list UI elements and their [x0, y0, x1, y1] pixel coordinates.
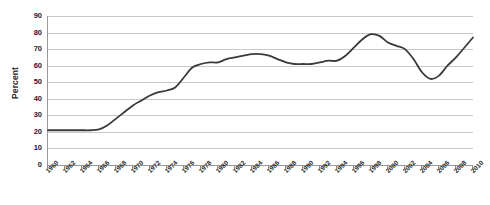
- y-tick-label-30: 30: [34, 112, 42, 120]
- plot-area: [47, 16, 473, 166]
- y-tick-label-60: 60: [34, 62, 42, 70]
- y-axis-tick-labels: 0102030405060708090: [22, 10, 44, 170]
- y-tick-label-20: 20: [34, 128, 42, 136]
- x-axis-tick-labels: 1960196219641966196819701972197419761978…: [47, 170, 472, 205]
- y-tick-label-10: 10: [34, 145, 42, 153]
- y-tick-label-80: 80: [34, 29, 42, 37]
- y-tick-label-70: 70: [34, 45, 42, 53]
- y-tick-label-40: 40: [34, 95, 42, 103]
- y-axis-title-label: Percent: [10, 67, 20, 99]
- y-tick-label-50: 50: [34, 78, 42, 86]
- y-tick-label-0: 0: [38, 161, 42, 169]
- y-tick-label-90: 90: [34, 12, 42, 20]
- chart-container: Percent 0102030405060708090 196019621964…: [0, 0, 490, 205]
- series-path-percent: [48, 34, 473, 130]
- series-line-chart: [48, 16, 473, 165]
